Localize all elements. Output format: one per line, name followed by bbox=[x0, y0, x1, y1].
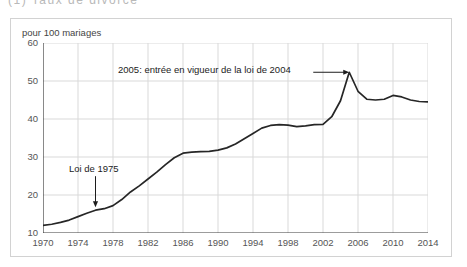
y-axis-tick-label: 20 bbox=[18, 189, 38, 200]
x-axis-tick-label: 1974 bbox=[61, 237, 95, 248]
x-axis-tick-label: 1982 bbox=[131, 237, 165, 248]
law-1975-arrowhead bbox=[93, 201, 98, 207]
cut-off-heading-strip: (1) Taux de divorce bbox=[0, 0, 467, 16]
y-axis-tick-label: 30 bbox=[18, 151, 38, 162]
x-axis-tick-label: 1986 bbox=[166, 237, 200, 248]
data-series-line bbox=[43, 72, 428, 225]
x-axis-tick-label: 2002 bbox=[306, 237, 340, 248]
x-axis-tick-label: 2010 bbox=[376, 237, 410, 248]
x-axis-tick-label: 1990 bbox=[201, 237, 235, 248]
x-axis-tick-label: 2006 bbox=[341, 237, 375, 248]
chart-figure: (1) Taux de divorce pour 100 mariages 10… bbox=[0, 0, 467, 267]
x-axis-tick-label: 1994 bbox=[236, 237, 270, 248]
y-axis-tick-label: 50 bbox=[18, 75, 38, 86]
y-axis-tick-label: 40 bbox=[18, 113, 38, 124]
cut-off-heading-text: (1) Taux de divorce bbox=[8, 0, 138, 7]
x-axis-tick-label: 1970 bbox=[26, 237, 60, 248]
peak-annotation-label: 2005: entrée en vigueur de la loi de 200… bbox=[118, 64, 291, 75]
law-1975-annotation-label: Loi de 1975 bbox=[69, 163, 119, 174]
x-axis-tick-label: 1998 bbox=[271, 237, 305, 248]
x-axis-tick-label: 2014 bbox=[411, 237, 445, 248]
x-axis-tick-label: 1978 bbox=[96, 237, 130, 248]
y-axis-tick-label: 60 bbox=[18, 37, 38, 48]
